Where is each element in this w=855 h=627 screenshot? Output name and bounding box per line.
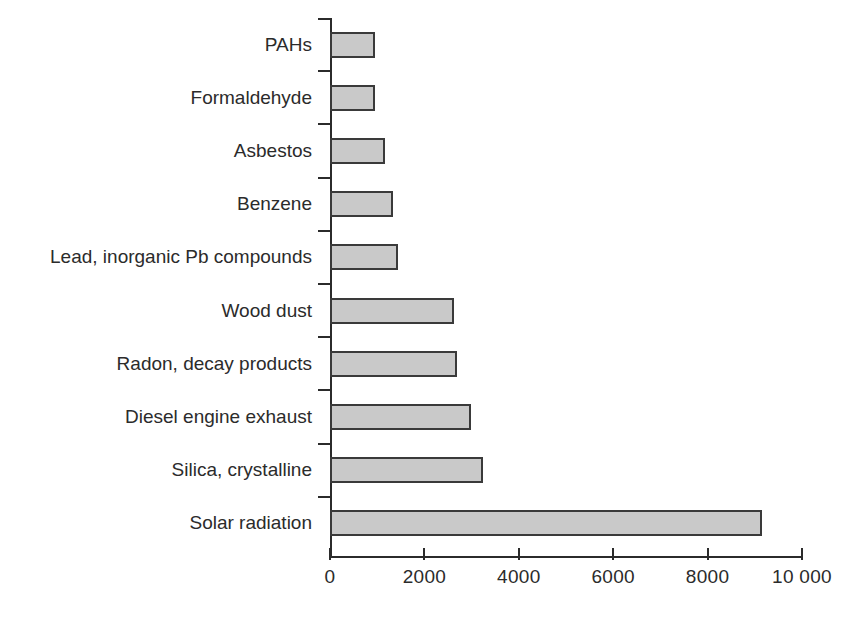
x-axis-tick [518,548,520,560]
category-label: Radon, decay products [0,354,330,373]
y-axis-tick [318,336,330,338]
bar [330,138,385,164]
bar-chart: 0200040006000800010 000 PAHsFormaldehyde… [0,0,855,627]
x-axis-tick-label: 6000 [591,566,634,588]
x-axis-tick-label: 2000 [403,566,446,588]
x-axis-tick-label: 4000 [497,566,540,588]
x-axis-line [330,556,802,558]
x-axis-tick-label: 10 000 [772,566,832,588]
category-label: PAHs [0,35,330,54]
bar [330,457,483,483]
x-axis-tick [801,548,803,560]
bar [330,404,471,430]
bar [330,85,375,111]
category-label: Silica, crystalline [0,460,330,479]
bar [330,32,375,58]
x-axis-tick-label: 0 [325,566,336,588]
bar [330,510,762,536]
bar [330,244,398,270]
y-axis-tick [318,283,330,285]
y-axis-cap [318,18,330,20]
category-label: Wood dust [0,301,330,320]
x-axis-tick [612,548,614,560]
y-axis-tick [318,177,330,179]
bar [330,191,393,217]
category-label: Asbestos [0,141,330,160]
category-label: Benzene [0,194,330,213]
y-axis-tick [318,70,330,72]
bar [330,351,457,377]
y-axis-tick [318,443,330,445]
y-axis-tick [318,230,330,232]
x-axis-tick [423,548,425,560]
category-label: Formaldehyde [0,88,330,107]
category-label: Diesel engine exhaust [0,407,330,426]
y-axis-tick [318,123,330,125]
bar [330,298,454,324]
category-label: Lead, inorganic Pb compounds [0,247,330,266]
y-axis-tick [318,496,330,498]
x-axis-tick [707,548,709,560]
x-axis-tick [329,548,331,560]
category-label: Solar radiation [0,513,330,532]
y-axis-tick [318,389,330,391]
x-axis-tick-label: 8000 [686,566,729,588]
